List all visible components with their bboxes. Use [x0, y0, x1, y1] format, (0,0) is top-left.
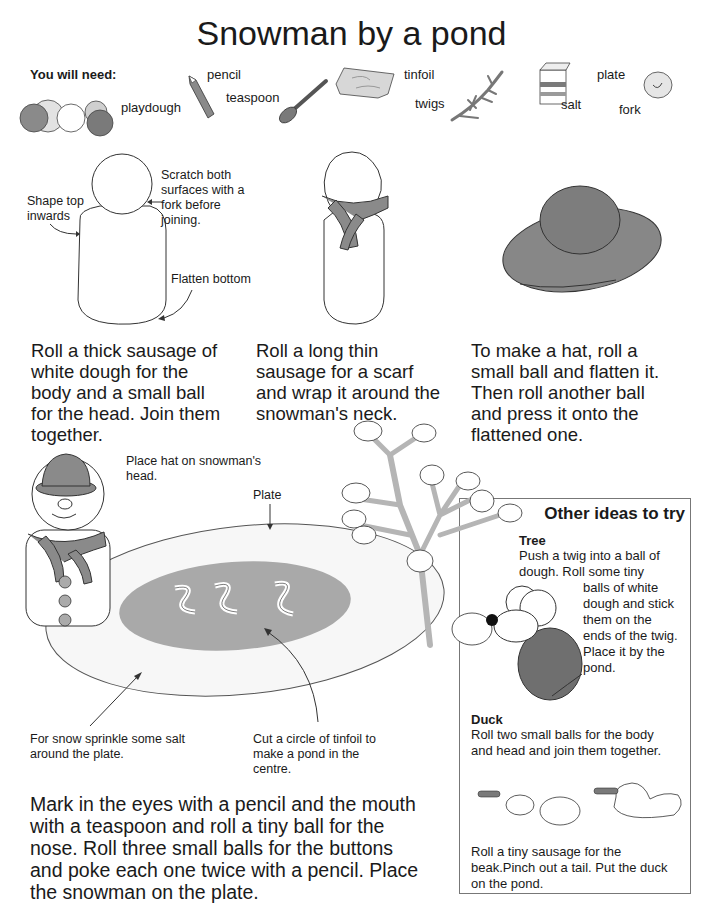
plate-icon — [642, 70, 674, 100]
other-ideas-title: Other ideas to try — [544, 504, 685, 524]
scratch-note: Scratch both surfaces with a fork before… — [161, 168, 261, 228]
finished-snowman — [20, 450, 120, 630]
shape-top-note: Shape top inwards — [27, 194, 97, 224]
flatten-arrow-icon — [156, 288, 196, 324]
place-hat-note: Place hat on snowman's head. — [126, 454, 276, 484]
snowman-scarf-diagram — [312, 150, 392, 330]
step-1-text: Roll a thick sausage of white dough for … — [31, 340, 231, 445]
step-4-text: Mark in the eyes with a pencil and the m… — [30, 793, 430, 903]
step-2-text: Roll a long thin sausage for a scarf and… — [256, 340, 446, 424]
plate-arrow-icon — [266, 504, 274, 530]
tree-heading: Tree — [519, 533, 546, 548]
teaspoon-icon — [276, 75, 332, 125]
salt-label: salt — [561, 97, 581, 112]
salt-arrow-icon — [86, 670, 146, 730]
tree-text-top: Push a twig into a ball of dough. Roll s… — [519, 548, 684, 580]
page-title: Snowman by a pond — [0, 14, 703, 53]
duck-steps-illustration — [474, 775, 690, 835]
scratch-arrow-icon — [147, 198, 163, 206]
salt-note: For snow sprinkle some salt around the p… — [30, 732, 210, 762]
materials-heading: You will need: — [30, 67, 116, 82]
tinfoil-label: tinfoil — [404, 67, 434, 82]
shape-top-arrow-icon — [48, 222, 80, 238]
flatten-note: Flatten bottom — [171, 272, 251, 287]
tinfoil-arrow-icon — [262, 624, 322, 724]
tinfoil-note: Cut a circle of tinfoil to make a pond i… — [253, 732, 393, 777]
mouse-illustration — [478, 584, 588, 704]
playdough-balls-icon — [18, 96, 118, 138]
plate-label: plate — [597, 67, 625, 82]
duck-text-bottom: Roll a tiny sausage for the beak.Pinch o… — [471, 844, 671, 892]
pencil-label: pencil — [207, 67, 241, 82]
plate-note: Plate — [253, 488, 282, 503]
duck-text-top: Roll two small balls for the body and he… — [471, 727, 671, 759]
twigs-label: twigs — [415, 96, 445, 111]
playdough-label: playdough — [121, 100, 181, 115]
hat-diagram — [498, 180, 684, 300]
teaspoon-label: teaspoon — [226, 90, 280, 105]
duck-heading: Duck — [471, 712, 503, 727]
tree-text-side: balls of white dough and stick them on t… — [583, 580, 683, 676]
fork-label: fork — [619, 102, 641, 117]
tinfoil-icon — [334, 64, 400, 104]
twig-icon — [448, 68, 516, 124]
